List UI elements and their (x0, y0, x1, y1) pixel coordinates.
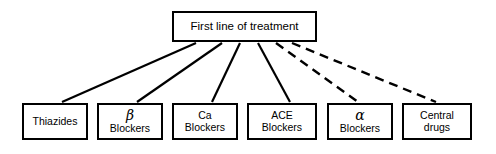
node-thiazides: Thiazides (22, 103, 88, 140)
connector-alpha-blockers (276, 43, 358, 102)
node-label-thiazides-line1: Thiazides (33, 116, 78, 128)
node-alpha-blockers: α Blockers (327, 103, 393, 140)
treatment-hierarchy-diagram: First line of treatment Thiazides β Bloc… (0, 0, 496, 154)
node-central-drugs: Central drugs (402, 103, 472, 140)
connector-ace-blockers (258, 43, 290, 102)
node-label-ca-blockers-line1: Ca (198, 110, 211, 122)
node-label-central-drugs-line1: Central (420, 110, 454, 122)
node-first-line-of-treatment: First line of treatment (172, 11, 317, 42)
node-label-ace-blockers-line1: ACE (271, 110, 293, 122)
alpha-symbol-icon: α (355, 108, 364, 124)
node-ace-blockers: ACE Blockers (247, 103, 317, 140)
node-label-ca-blockers-line2: Blockers (185, 122, 225, 134)
connector-beta-blockers (137, 43, 222, 102)
node-label-central-drugs-line2: drugs (424, 122, 450, 134)
node-label-alpha-blockers-line2: Blockers (340, 123, 380, 135)
connector-thiazides (62, 43, 196, 102)
connector-central-drugs (292, 43, 436, 102)
beta-symbol-icon: β (126, 108, 134, 124)
node-ca-blockers: Ca Blockers (172, 103, 238, 140)
node-label-root: First line of treatment (190, 20, 298, 33)
node-label-beta-blockers-line2: Blockers (110, 123, 150, 135)
connector-ca-blockers (212, 43, 240, 102)
node-beta-blockers: β Blockers (97, 103, 163, 140)
node-label-ace-blockers-line2: Blockers (262, 122, 302, 134)
